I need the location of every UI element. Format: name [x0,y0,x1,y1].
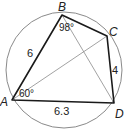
angle-label-a: 60° [19,88,34,99]
side-label-cd: 4 [112,64,118,76]
point-label-c: C [109,25,118,39]
point-label-b: B [58,0,66,14]
side-label-ab: 6 [27,47,33,59]
diagram-canvas: B C A D 6 4 6.3 98° 60° [0,0,127,137]
point-label-d: D [115,107,124,121]
angle-label-b: 98° [59,22,74,33]
side-label-ad: 6.3 [54,105,69,117]
diagram-svg: B C A D 6 4 6.3 98° 60° [0,0,127,137]
point-label-a: A [0,95,8,109]
